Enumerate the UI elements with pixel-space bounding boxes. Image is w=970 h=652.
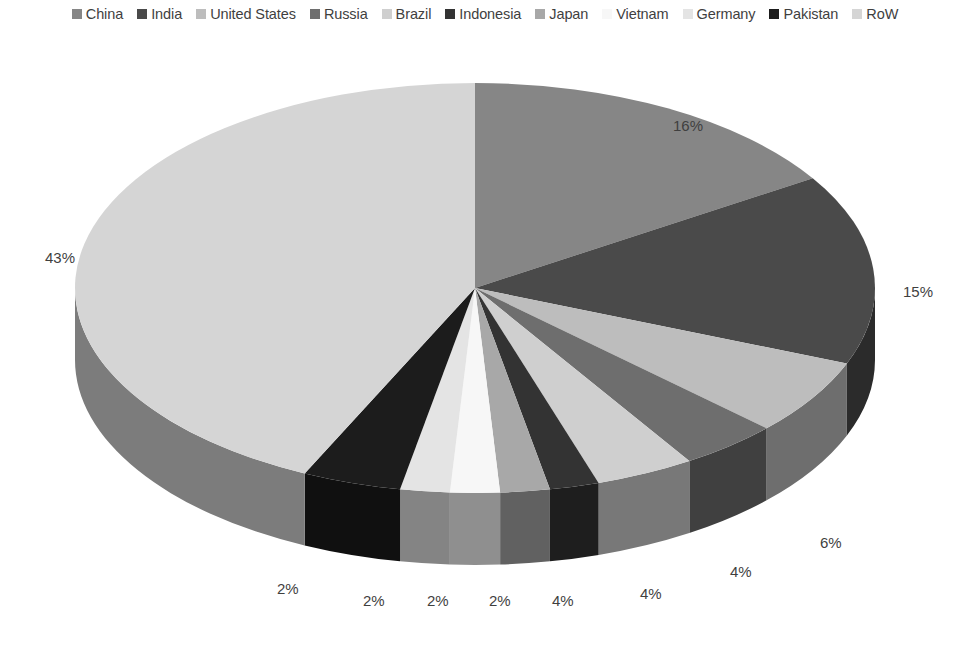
legend-item-label: Pakistan	[783, 7, 838, 22]
pie-data-label: 2%	[363, 593, 385, 608]
pie-top-slices	[75, 83, 875, 493]
legend-swatch-icon	[72, 9, 82, 19]
legend-swatch-icon	[196, 9, 206, 19]
legend-item-label: RoW	[866, 7, 898, 22]
legend-swatch-icon	[683, 9, 693, 19]
pie-data-label: 2%	[277, 581, 299, 596]
legend-swatch-icon	[852, 9, 862, 19]
pie-data-label: 2%	[427, 593, 449, 608]
legend-item-vietnam[interactable]: Vietnam	[602, 7, 668, 22]
legend-item-germany[interactable]: Germany	[683, 7, 756, 22]
legend-item-indonesia[interactable]: Indonesia	[445, 7, 521, 22]
pie-slice-side	[450, 493, 500, 565]
legend-item-label: India	[151, 7, 182, 22]
pie-data-label: 16%	[673, 118, 703, 133]
legend-swatch-icon	[445, 9, 455, 19]
legend-swatch-icon	[602, 9, 612, 19]
legend-swatch-icon	[535, 9, 545, 19]
legend-item-brazil[interactable]: Brazil	[382, 7, 432, 22]
legend-item-japan[interactable]: Japan	[535, 7, 588, 22]
pie-data-label: 4%	[640, 586, 662, 601]
legend-item-label: Japan	[549, 7, 588, 22]
pie-slice-side	[500, 489, 550, 564]
legend-item-label: Germany	[697, 7, 756, 22]
pie-data-label: 4%	[552, 593, 574, 608]
legend-item-label: Indonesia	[459, 7, 521, 22]
legend-swatch-icon	[382, 9, 392, 19]
pie-chart-area: 16%15%6%4%4%4%2%2%2%2%43%	[0, 26, 970, 652]
legend-item-india[interactable]: India	[137, 7, 182, 22]
legend-item-label: Russia	[324, 7, 368, 22]
legend-item-row[interactable]: RoW	[852, 7, 898, 22]
legend-swatch-icon	[310, 9, 320, 19]
pie-data-label: 2%	[489, 593, 511, 608]
legend-item-united-states[interactable]: United States	[196, 7, 296, 22]
legend-item-pakistan[interactable]: Pakistan	[769, 7, 838, 22]
legend-item-label: United States	[210, 7, 296, 22]
pie-slice-side	[400, 489, 450, 564]
pie-data-label: 4%	[730, 564, 752, 579]
legend-swatch-icon	[137, 9, 147, 19]
pie-chart-svg	[0, 26, 970, 652]
chart-legend: ChinaIndiaUnited StatesRussiaBrazilIndon…	[0, 3, 970, 25]
pie-data-label: 43%	[45, 250, 75, 265]
pie-data-label: 15%	[903, 284, 933, 299]
legend-item-label: Brazil	[396, 7, 432, 22]
legend-item-china[interactable]: China	[72, 7, 123, 22]
legend-item-label: China	[86, 7, 123, 22]
pie-slice-side	[550, 483, 599, 561]
legend-item-label: Vietnam	[616, 7, 668, 22]
legend-swatch-icon	[769, 9, 779, 19]
chart-page: ChinaIndiaUnited StatesRussiaBrazilIndon…	[0, 0, 970, 652]
legend-item-russia[interactable]: Russia	[310, 7, 368, 22]
pie-data-label: 6%	[820, 535, 842, 550]
